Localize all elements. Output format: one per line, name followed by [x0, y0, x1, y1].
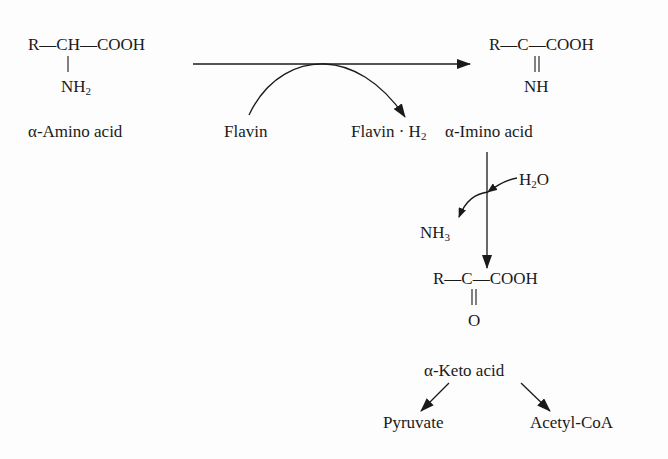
to-acetyl-coa-arrow — [521, 383, 550, 411]
water-ammonia-curved-arrow — [459, 178, 517, 217]
keto-acid-formula: R—C—COOH — [433, 270, 538, 287]
reduced-flavin-subscript: 2 — [421, 130, 427, 142]
amino-group: NH2 — [61, 78, 91, 97]
reduced-flavin-label: Flavin · H2 — [351, 123, 426, 142]
reaction-diagram: R—CH—COOH NH2 α-Amino acid Flavin Flavin… — [0, 0, 668, 459]
to-pyruvate-arrow — [421, 383, 449, 411]
imino-acid-label: α-Imino acid — [445, 123, 533, 140]
ammonia-text: NH — [420, 223, 445, 242]
arrows-layer — [0, 0, 668, 459]
amino-acid-label: α-Amino acid — [28, 123, 122, 140]
pyruvate-label: Pyruvate — [383, 414, 443, 431]
amino-group-subscript: 2 — [86, 85, 92, 97]
ammonia-subscript: 3 — [445, 231, 451, 243]
reduced-flavin-text: Flavin · H — [351, 122, 421, 141]
acetyl-coa-label: Acetyl-CoA — [530, 414, 613, 431]
water-label: H2O — [519, 171, 549, 190]
amino-group-text: NH — [61, 77, 86, 96]
flavin-label: Flavin — [224, 123, 267, 140]
amino-acid-formula: R—CH—COOH — [28, 36, 145, 53]
imino-acid-formula: R—C—COOH — [489, 36, 594, 53]
water-h: H — [519, 170, 531, 189]
water-o: O — [537, 170, 549, 189]
keto-acid-label: α-Keto acid — [424, 362, 504, 379]
ammonia-label: NH3 — [420, 224, 450, 243]
flavin-curved-arrow — [249, 64, 405, 117]
keto-oxygen: O — [468, 312, 480, 329]
imino-group: NH — [524, 78, 549, 95]
